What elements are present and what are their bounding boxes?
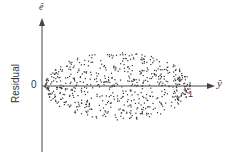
residual-plot: Residual ê 0 1 ŷ: [0, 0, 235, 158]
y-axis-title-text: Residual: [10, 59, 21, 109]
y-tick-zero: 0: [31, 79, 37, 90]
y-axis-arrow-icon: [39, 18, 45, 26]
y-axis-symbol: ê: [39, 1, 43, 12]
x-tick-label-1: 1: [188, 89, 193, 99]
x-axis-arrow-icon: [207, 83, 215, 89]
y-axis-title: Residual: [4, 62, 20, 112]
x-axis-symbol: ŷ: [217, 77, 222, 89]
